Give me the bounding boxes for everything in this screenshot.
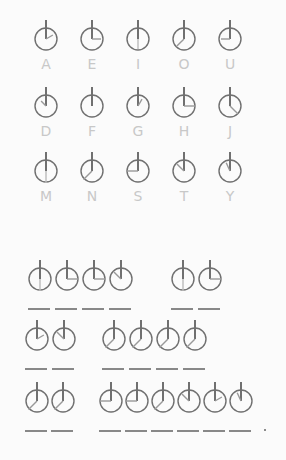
clock-symbol-icon: [217, 18, 243, 52]
encoded-symbol-icon: [24, 380, 50, 414]
key-letter: O: [171, 56, 197, 72]
clock-symbol-icon: [33, 85, 59, 119]
clock-symbol-icon: [79, 18, 105, 52]
key-letter: J: [217, 123, 243, 139]
key-letter: M: [33, 188, 59, 204]
period: [264, 429, 266, 431]
answer-blank[interactable]: [129, 368, 151, 370]
answer-blank[interactable]: [198, 308, 220, 310]
clock-symbol-icon: [79, 85, 105, 119]
answer-blank[interactable]: [25, 430, 47, 432]
answer-blank[interactable]: [203, 430, 225, 432]
key-letter: I: [125, 56, 151, 72]
clock-symbol-icon: [171, 18, 197, 52]
answer-blank[interactable]: [177, 430, 199, 432]
key-letter: N: [79, 188, 105, 204]
clock-symbol-icon: [125, 85, 151, 119]
encoded-symbol-icon: [27, 258, 53, 292]
encoded-symbol-icon: [170, 258, 196, 292]
key-letter: U: [217, 56, 243, 72]
encoded-symbol-icon: [176, 380, 202, 414]
answer-blank[interactable]: [102, 368, 124, 370]
encoded-symbol-icon: [202, 380, 228, 414]
encoded-symbol-icon: [197, 258, 223, 292]
answer-blank[interactable]: [52, 368, 74, 370]
key-letter: S: [125, 188, 151, 204]
encoded-symbol-icon: [155, 318, 181, 352]
encoded-symbol-icon: [81, 258, 107, 292]
key-letter: Y: [217, 188, 243, 204]
clock-symbol-icon: [79, 150, 105, 184]
answer-blank[interactable]: [28, 308, 50, 310]
answer-blank[interactable]: [156, 368, 178, 370]
encoded-symbol-icon: [50, 380, 76, 414]
encoded-symbol-icon: [98, 380, 124, 414]
key-letter: D: [33, 123, 59, 139]
answer-blank[interactable]: [109, 308, 131, 310]
key-letter: E: [79, 56, 105, 72]
clock-symbol-icon: [125, 150, 151, 184]
encoded-symbol-icon: [228, 380, 254, 414]
encoded-symbol-icon: [128, 318, 154, 352]
answer-blank[interactable]: [25, 368, 47, 370]
answer-blank[interactable]: [55, 308, 77, 310]
encoded-symbol-icon: [101, 318, 127, 352]
clock-symbol-icon: [217, 85, 243, 119]
key-letter: H: [171, 123, 197, 139]
clock-symbol-icon: [171, 150, 197, 184]
key-letter: T: [171, 188, 197, 204]
encoded-symbol-icon: [182, 318, 208, 352]
encoded-symbol-icon: [54, 258, 80, 292]
clock-symbol-icon: [217, 150, 243, 184]
key-letter: A: [33, 56, 59, 72]
encoded-symbol-icon: [124, 380, 150, 414]
answer-blank[interactable]: [82, 308, 104, 310]
encoded-symbol-icon: [24, 318, 50, 352]
answer-blank[interactable]: [183, 368, 205, 370]
answer-blank[interactable]: [171, 308, 193, 310]
clock-symbol-icon: [33, 18, 59, 52]
clock-symbol-icon: [125, 18, 151, 52]
encoded-symbol-icon: [108, 258, 134, 292]
key-letter: G: [125, 123, 151, 139]
answer-blank[interactable]: [151, 430, 173, 432]
answer-blank[interactable]: [229, 430, 251, 432]
encoded-symbol-icon: [51, 318, 77, 352]
encoded-symbol-icon: [150, 380, 176, 414]
answer-blank[interactable]: [125, 430, 147, 432]
clock-symbol-icon: [171, 85, 197, 119]
key-letter: F: [79, 123, 105, 139]
answer-blank[interactable]: [99, 430, 121, 432]
answer-blank[interactable]: [51, 430, 73, 432]
clock-symbol-icon: [33, 150, 59, 184]
